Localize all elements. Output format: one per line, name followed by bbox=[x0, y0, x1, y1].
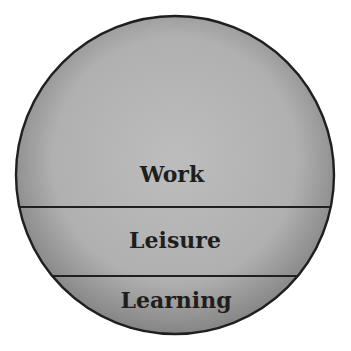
diagram-canvas: Work Leisure Learning bbox=[0, 0, 351, 351]
section-label-work: Work bbox=[139, 161, 205, 187]
section-label-leisure: Leisure bbox=[129, 227, 221, 253]
life-balance-diagram: Work Leisure Learning bbox=[0, 0, 351, 351]
section-label-learning: Learning bbox=[120, 287, 231, 313]
